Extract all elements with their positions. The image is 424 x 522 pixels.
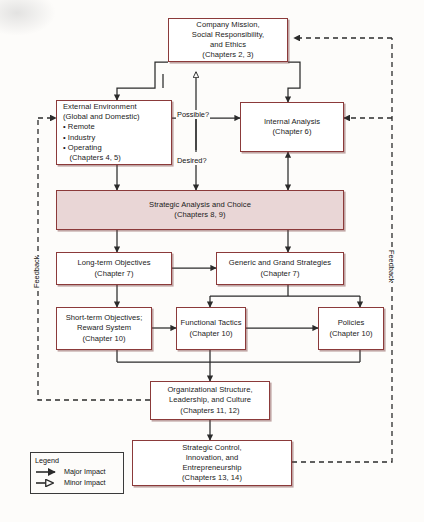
node-external-environment-text: External Environment(Global and Domestic… — [63, 102, 168, 163]
feedback-label-right: Feedback — [386, 250, 397, 282]
legend-major-label: Major Impact — [64, 467, 106, 476]
node-strategic-analysis-and-choice-text: Strategic Analysis and Choice(Chapters 8… — [60, 200, 340, 220]
node-strategic-control-text: Strategic Control,Innovation, andEntrepr… — [136, 443, 288, 483]
node-organizational-structure-text: Organizational Structure,Leadership, and… — [154, 385, 266, 415]
node-internal-analysis[interactable]: Internal Analysis(Chapter 6) — [240, 102, 344, 152]
node-functional-tactics-text: Functional Tactics(Chapter 10) — [180, 318, 242, 338]
legend-minor-label: Minor Impact — [64, 478, 106, 487]
node-short-term-objectives-text: Short-term Objectives;Reward System(Chap… — [60, 313, 148, 343]
legend-title: Legend — [35, 456, 119, 465]
legend-row-minor: Minor Impact — [35, 477, 119, 488]
legend: Legend Major Impact — [30, 452, 124, 494]
node-generic-and-grand-strategies[interactable]: Generic and Grand Strategies(Chapter 7) — [216, 252, 344, 285]
edge-label-possible: Possible? — [176, 110, 210, 119]
node-company-mission-text: Company Mission,Social Responsibility,an… — [172, 20, 284, 60]
node-strategic-analysis-and-choice[interactable]: Strategic Analysis and Choice(Chapters 8… — [56, 190, 344, 230]
minor-impact-arrow-icon — [35, 478, 61, 488]
node-company-mission[interactable]: Company Mission,Social Responsibility,an… — [168, 18, 288, 62]
node-policies[interactable]: Policies(Chapter 10) — [318, 307, 384, 350]
node-generic-and-grand-strategies-text: Generic and Grand Strategies(Chapter 7) — [220, 258, 340, 278]
legend-row-major: Major Impact — [35, 466, 119, 477]
node-policies-text: Policies(Chapter 10) — [322, 318, 380, 338]
node-internal-analysis-text: Internal Analysis(Chapter 6) — [244, 117, 340, 137]
node-external-environment[interactable]: External Environment(Global and Domestic… — [56, 100, 172, 165]
node-long-term-objectives-text: Long-term Objectives(Chapter 7) — [60, 258, 168, 278]
feedback-label-left: Feedback — [31, 256, 42, 288]
node-short-term-objectives[interactable]: Short-term Objectives;Reward System(Chap… — [56, 307, 152, 350]
edge-label-desired: Desired? — [176, 156, 208, 165]
diagram-canvas: Company Mission,Social Responsibility,an… — [0, 0, 424, 522]
node-long-term-objectives[interactable]: Long-term Objectives(Chapter 7) — [56, 252, 172, 285]
node-organizational-structure[interactable]: Organizational Structure,Leadership, and… — [150, 381, 270, 420]
node-strategic-control[interactable]: Strategic Control,Innovation, andEntrepr… — [132, 440, 292, 486]
major-impact-arrow-icon — [35, 467, 61, 477]
node-functional-tactics[interactable]: Functional Tactics(Chapter 10) — [176, 307, 246, 350]
